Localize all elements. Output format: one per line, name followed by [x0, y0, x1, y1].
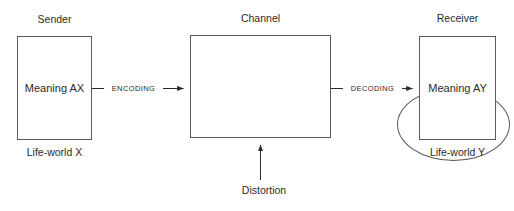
sender-box-label: Meaning AX — [18, 81, 91, 95]
sender-caption: Sender — [17, 12, 92, 26]
decoding-arrow-label: DECODING — [343, 84, 402, 94]
channel-caption: Channel — [190, 11, 331, 25]
receiver-lifeworld-label: Life-world Y — [411, 145, 504, 159]
receiver-box-label: Meaning AY — [420, 81, 495, 95]
communication-model-diagram: Sender Meaning AX Life-world X Channel A… — [0, 0, 514, 211]
distortion-label: Distortion — [228, 183, 300, 197]
receiver-caption: Receiver — [419, 11, 496, 25]
sender-lifeworld-label: Life-world X — [7, 145, 102, 159]
sender-box: Meaning AX — [17, 36, 92, 140]
receiver-box: Meaning AY — [419, 36, 496, 140]
channel-box: Ambiguous message — [190, 35, 331, 138]
encoding-arrow-label: ENCODING — [104, 84, 163, 94]
